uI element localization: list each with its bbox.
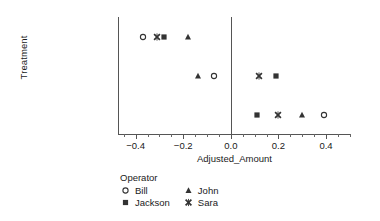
legend-item-john[interactable]: John: [183, 185, 219, 196]
x-tick-minor: [207, 134, 208, 137]
x-tick-major: [136, 134, 137, 139]
x-tick-minor: [290, 134, 291, 137]
legend-item-sara[interactable]: Sara: [183, 197, 219, 208]
x-tick-label: 0.2: [272, 140, 285, 151]
legend-entries: BillJohnJacksonSara: [120, 185, 218, 208]
zero-reference-line: [231, 17, 232, 134]
y-axis-title: Treatment: [18, 13, 29, 103]
data-point-marker: [318, 110, 329, 121]
x-tick-major: [183, 134, 184, 139]
legend-item-jackson[interactable]: Jackson: [120, 197, 170, 208]
square-filled-icon: [120, 197, 131, 208]
x-tick-major: [278, 134, 279, 139]
x-tick-minor: [255, 134, 256, 137]
legend-item-label: John: [198, 185, 219, 196]
x-tick-label: −0.4: [126, 140, 145, 151]
x-tick-label: 0.0: [224, 140, 237, 151]
scatter-plot-figure: Treatment DropHandheld RotaryPush Rotary…: [0, 0, 380, 221]
x-tick-label: 0.4: [319, 140, 332, 151]
plot-area: DropHandheld RotaryPush Rotary −0.4−0.20…: [118, 17, 350, 135]
x-tick-minor: [302, 134, 303, 137]
x-tick-minor: [171, 134, 172, 137]
data-point-marker: [183, 31, 194, 42]
x-tick-minor: [124, 134, 125, 137]
x-tick-minor: [243, 134, 244, 137]
data-point-marker: [297, 110, 308, 121]
data-point-marker: [273, 110, 284, 121]
data-point-marker: [137, 31, 148, 42]
x-tick-minor: [159, 134, 160, 137]
legend-title: Operator: [120, 172, 218, 183]
data-point-marker: [152, 31, 163, 42]
legend-item-bill[interactable]: Bill: [120, 185, 170, 196]
x-tick-minor: [350, 134, 351, 137]
x-tick-minor: [314, 134, 315, 137]
data-point-marker: [192, 71, 203, 82]
legend-item-label: Jackson: [135, 197, 170, 208]
x-filled-icon: [183, 197, 194, 208]
x-tick-minor: [267, 134, 268, 137]
data-point-marker: [271, 71, 282, 82]
x-axis-title: Adjusted_Amount: [119, 153, 350, 164]
x-tick-minor: [338, 134, 339, 137]
legend-item-label: Bill: [135, 185, 148, 196]
legend: Operator BillJohnJacksonSara: [120, 172, 218, 208]
x-tick-minor: [148, 134, 149, 137]
x-tick-minor: [219, 134, 220, 137]
x-tick-major: [326, 134, 327, 139]
data-point-marker: [209, 71, 220, 82]
triangle-filled-icon: [183, 185, 194, 196]
circle-open-icon: [120, 185, 131, 196]
data-point-marker: [252, 110, 263, 121]
x-tick-minor: [195, 134, 196, 137]
x-tick-label: −0.2: [174, 140, 193, 151]
legend-item-label: Sara: [198, 197, 218, 208]
x-tick-major: [231, 134, 232, 139]
data-point-marker: [254, 71, 265, 82]
